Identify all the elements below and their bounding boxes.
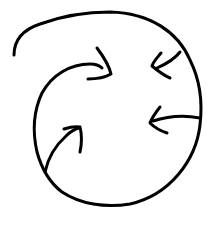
arrow-right-shaft	[153, 116, 200, 121]
sketch-canvas: Hand-drawn circle with four arrows point…	[0, 0, 215, 225]
sketch-strokes	[14, 12, 201, 206]
arrow-lower-left-shaft	[45, 128, 79, 172]
circle-outline	[14, 12, 201, 206]
converge-arrows-circle-icon	[0, 0, 215, 225]
